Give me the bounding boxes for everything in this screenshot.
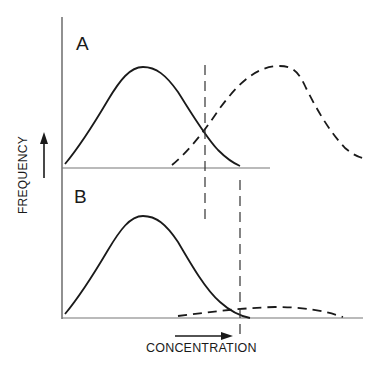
concentration-arrow-icon [175, 332, 233, 340]
x-axis-label: CONCENTRATION [146, 341, 257, 355]
panel-a-label: A [76, 33, 89, 55]
diagram-canvas [0, 0, 384, 377]
panel-b-solid-curve [65, 216, 250, 318]
frequency-arrow-icon [40, 132, 48, 178]
frequency-concentration-diagram: A B FREQUENCY CONCENTRATION [0, 0, 384, 377]
panel-b-label: B [74, 186, 87, 208]
panel-b-dashed-curve [178, 307, 343, 317]
y-axis-label: FREQUENCY [16, 130, 30, 220]
panel-a-dashed-curve [172, 66, 363, 165]
